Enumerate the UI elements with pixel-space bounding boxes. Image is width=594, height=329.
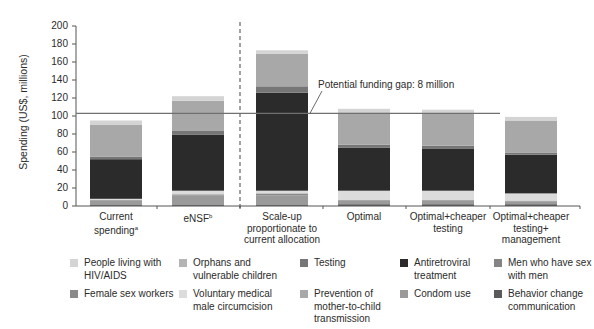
y-tick-label: 40 <box>44 165 68 175</box>
legend-item: People living with HIV/AIDS <box>70 257 175 282</box>
legend-label: Prevention of mother-to-child transmissi… <box>314 288 396 326</box>
legend-swatch-icon <box>400 290 408 298</box>
bar-segment <box>422 201 474 205</box>
legend-item: Antiretroviral treatment <box>400 257 490 282</box>
y-tick-label: 60 <box>44 147 68 157</box>
y-tick-label: 200 <box>44 21 68 31</box>
y-axis-label: Spending (US$, millions) <box>17 47 29 177</box>
legend-label: Antiretroviral treatment <box>414 257 490 282</box>
bar-segment <box>90 125 142 157</box>
bar-segment <box>256 50 308 54</box>
legend-swatch-icon <box>300 290 308 298</box>
legend-label: Behavior change communication <box>508 288 594 313</box>
bar-segment <box>90 159 142 199</box>
legend-item: Condom use <box>400 288 490 301</box>
y-tick-label: 120 <box>44 93 68 103</box>
legend-swatch-icon <box>179 290 187 298</box>
x-category-label: Optimal+cheapertesting <box>403 211 493 234</box>
bar-segment <box>256 93 308 191</box>
bar-segment <box>338 145 390 148</box>
legend-swatch-icon <box>494 259 502 267</box>
bar-segment <box>90 200 142 201</box>
bar-segment <box>90 199 142 200</box>
bar-segment <box>505 155 557 194</box>
bar-segment <box>256 54 308 86</box>
legend-label: Testing <box>314 257 346 270</box>
x-category-label: eNSFb <box>153 211 243 225</box>
legend-label: Condom use <box>414 288 471 301</box>
bar-segment <box>505 121 557 153</box>
bar-segment <box>172 130 224 135</box>
bar-segment <box>338 109 390 113</box>
bar-segment <box>256 193 308 195</box>
bar-segment <box>422 148 474 190</box>
legend-label: Voluntary medical male circumcision <box>193 288 296 313</box>
y-tick-label: 100 <box>44 111 68 121</box>
funding-gap-annotation: Potential funding gap: 8 million <box>318 79 454 90</box>
x-category-label: Scale-upproportionate tocurrent allocati… <box>237 211 327 246</box>
legend-swatch-icon <box>70 290 78 298</box>
bar-segment <box>422 200 474 201</box>
legend-swatch-icon <box>70 259 78 267</box>
bar-segment <box>172 191 224 195</box>
y-tick-label: 80 <box>44 129 68 139</box>
bar-segment <box>505 193 557 200</box>
bar-segment <box>172 194 224 195</box>
bar-segment <box>422 113 474 145</box>
bar-segment <box>172 195 224 205</box>
y-tick-label: 140 <box>44 75 68 85</box>
legend-item: Behavior change communication <box>494 288 594 313</box>
bar-segment <box>256 195 308 205</box>
bar-segment <box>90 121 142 126</box>
legend-item: Men who have sex with men <box>494 257 594 282</box>
bar-segment <box>505 153 557 155</box>
bar-segment <box>422 146 474 149</box>
bar-segment <box>505 117 557 121</box>
bar-segment <box>90 157 142 160</box>
bar-segment <box>338 200 390 201</box>
bar-segment <box>338 191 390 200</box>
y-tick-label: 160 <box>44 57 68 67</box>
annotation-leader <box>310 91 322 113</box>
legend-item: Testing <box>300 257 396 270</box>
legend: People living with HIV/AIDSOrphans and v… <box>70 257 594 327</box>
bar-segment <box>505 201 557 202</box>
y-tick-label: 180 <box>44 39 68 49</box>
legend-label: Orphans and vulnerable children <box>193 257 296 282</box>
legend-label: Female sex workers <box>84 288 173 301</box>
y-tick-label: 0 <box>44 201 68 211</box>
bar-segment <box>172 96 224 101</box>
bar-segment <box>90 201 142 206</box>
legend-swatch-icon <box>400 259 408 267</box>
y-tick-label: 20 <box>44 183 68 193</box>
legend-item: Orphans and vulnerable children <box>179 257 296 282</box>
bar-segment <box>338 112 390 144</box>
legend-item: Female sex workers <box>70 288 175 301</box>
bar-segment <box>505 202 557 205</box>
legend-swatch-icon <box>494 290 502 298</box>
bar-segment <box>256 86 308 92</box>
legend-swatch-icon <box>179 259 187 267</box>
bar-segment <box>422 191 474 200</box>
x-category-label: Currentspendinga <box>71 211 161 236</box>
legend-swatch-icon <box>300 259 308 267</box>
bar-segment <box>172 135 224 191</box>
bar-segment <box>256 191 308 194</box>
bar-segment <box>338 201 390 205</box>
x-category-label: Optimal <box>319 211 409 223</box>
legend-item: Voluntary medical male circumcision <box>179 288 296 313</box>
legend-item: Prevention of mother-to-child transmissi… <box>300 288 396 326</box>
legend-label: Men who have sex with men <box>508 257 594 282</box>
bar-segment <box>172 101 224 131</box>
legend-label: People living with HIV/AIDS <box>84 257 175 282</box>
stacked-bar-chart: Spending (US$, millions) 020406080100120… <box>0 0 594 250</box>
bar-segment <box>338 148 390 191</box>
x-category-label: Optimal+cheapertesting+management <box>486 211 576 246</box>
